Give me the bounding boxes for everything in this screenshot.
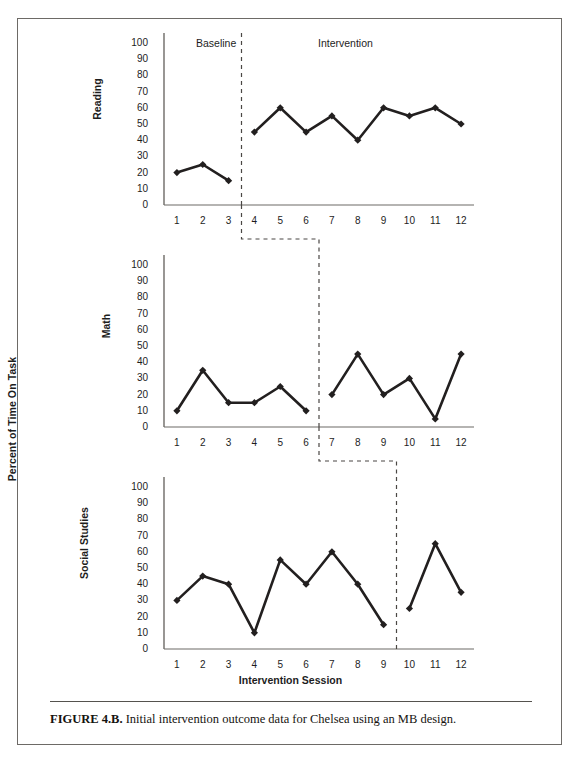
y-tick: 90: [122, 276, 148, 286]
caption-divider: [50, 701, 532, 702]
x-tick: 1: [166, 659, 188, 670]
y-tick: 0: [122, 644, 148, 654]
y-tick: 30: [122, 595, 148, 605]
phase-label-intervention: Intervention: [318, 37, 373, 49]
x-tick: 1: [166, 215, 188, 226]
x-tick: 9: [373, 437, 395, 448]
page-header-bleed: [0, 0, 579, 12]
x-tick: 7: [321, 215, 343, 226]
x-tick: 5: [269, 437, 291, 448]
y-tick-labels-reading: 1009080706050403020100: [118, 33, 148, 209]
x-tick: 11: [424, 215, 446, 226]
x-tick: 4: [243, 215, 265, 226]
y-tick: 20: [122, 390, 148, 400]
x-tick: 8: [347, 437, 369, 448]
x-tick: 4: [243, 659, 265, 670]
y-tick: 50: [122, 341, 148, 351]
x-tick: 7: [321, 437, 343, 448]
x-tick: 9: [373, 215, 395, 226]
phase-label-baseline: Baseline: [196, 37, 236, 49]
y-tick: 50: [122, 119, 148, 129]
y-tick: 90: [122, 498, 148, 508]
x-tick: 10: [398, 437, 420, 448]
caption-body: Initial intervention outcome data for Ch…: [126, 712, 456, 726]
x-tick: 10: [398, 215, 420, 226]
y-tick: 10: [122, 406, 148, 416]
plot-area-social-studies: [154, 477, 484, 653]
y-tick: 0: [122, 200, 148, 210]
y-tick: 0: [122, 422, 148, 432]
x-tick: 2: [192, 659, 214, 670]
x-tick: 11: [424, 437, 446, 448]
y-tick: 60: [122, 547, 148, 557]
x-tick: 3: [218, 215, 240, 226]
line-chart-reading: [154, 33, 484, 209]
x-tick: 6: [295, 215, 317, 226]
y-tick: 60: [122, 103, 148, 113]
x-tick: 11: [424, 659, 446, 670]
plot-area-reading: [154, 33, 484, 209]
x-tick: 12: [450, 659, 472, 670]
y-tick: 40: [122, 579, 148, 589]
x-tick-labels-math: 123456789101112: [154, 437, 484, 453]
x-tick: 3: [218, 437, 240, 448]
x-axis-title: Intervention Session: [18, 674, 563, 686]
y-tick: 30: [122, 373, 148, 383]
y-tick: 40: [122, 135, 148, 145]
x-tick: 12: [450, 437, 472, 448]
x-tick: 2: [192, 215, 214, 226]
x-tick: 1: [166, 437, 188, 448]
panel-label-social-studies: Social Studies: [78, 468, 90, 618]
x-tick: 12: [450, 215, 472, 226]
y-tick: 20: [122, 168, 148, 178]
y-tick: 80: [122, 292, 148, 302]
x-tick: 7: [321, 659, 343, 670]
y-tick: 70: [122, 87, 148, 97]
y-tick: 80: [122, 70, 148, 80]
y-tick: 80: [122, 514, 148, 524]
y-tick: 40: [122, 357, 148, 367]
y-axis-title: Percent of Time On Task: [6, 319, 18, 519]
panel-label-math: Math: [100, 251, 112, 401]
y-tick: 10: [122, 628, 148, 638]
x-tick: 2: [192, 437, 214, 448]
figure-caption: FIGURE 4.B. Initial intervention outcome…: [50, 711, 540, 727]
x-tick: 10: [398, 659, 420, 670]
x-tick: 8: [347, 659, 369, 670]
figure-frame: Percent of Time On Task Reading 10090807…: [17, 18, 562, 745]
y-tick: 70: [122, 531, 148, 541]
y-tick: 20: [122, 612, 148, 622]
y-tick: 100: [122, 38, 148, 48]
x-tick: 9: [373, 659, 395, 670]
x-tick: 5: [269, 659, 291, 670]
panel-reading: Reading 1009080706050403020100 123456789…: [18, 19, 563, 251]
x-tick: 6: [295, 659, 317, 670]
panel-math: Math 1009080706050403020100 123456789101…: [18, 241, 563, 473]
x-tick-labels-social-studies: 123456789101112: [154, 659, 484, 675]
plot-area-math: [154, 255, 484, 431]
x-tick: 4: [243, 437, 265, 448]
x-tick: 3: [218, 659, 240, 670]
y-tick: 70: [122, 309, 148, 319]
y-tick-labels-math: 1009080706050403020100: [118, 255, 148, 431]
x-tick: 8: [347, 215, 369, 226]
x-tick-labels-reading: 123456789101112: [154, 215, 484, 231]
y-tick: 100: [122, 260, 148, 270]
line-chart-math: [154, 255, 484, 431]
line-chart-social-studies: [154, 477, 484, 653]
y-tick: 10: [122, 184, 148, 194]
y-tick: 30: [122, 151, 148, 161]
y-tick: 50: [122, 563, 148, 573]
caption-figure-number: FIGURE 4.B.: [50, 712, 123, 726]
x-tick: 5: [269, 215, 291, 226]
panel-label-reading: Reading: [91, 24, 103, 174]
panel-social-studies: Social Studies 1009080706050403020100 12…: [18, 463, 563, 703]
y-tick: 60: [122, 325, 148, 335]
x-tick: 6: [295, 437, 317, 448]
y-tick: 100: [122, 482, 148, 492]
y-tick-labels-social-studies: 1009080706050403020100: [118, 477, 148, 653]
y-tick: 90: [122, 54, 148, 64]
